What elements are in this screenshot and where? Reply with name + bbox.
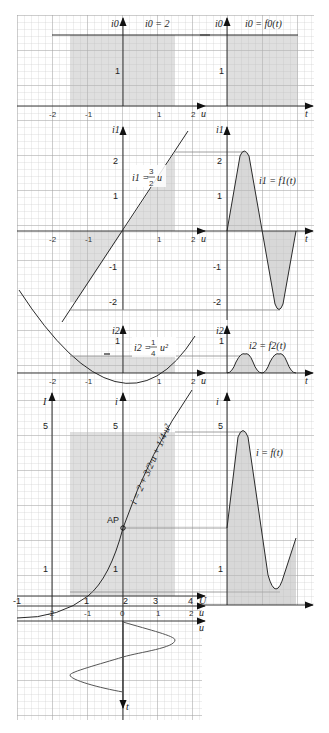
total-outer-tick-1: 1 xyxy=(43,564,48,574)
i1t-y-axis-label: i1 xyxy=(216,124,224,135)
i0t-shaded-area xyxy=(227,35,298,106)
i1-tick-neg2: -2 xyxy=(109,297,117,307)
i0-equation: i0 = 2 xyxy=(145,18,170,29)
totalt-y-axis-label: i xyxy=(216,396,219,407)
total-inner-xtick-2: 2 xyxy=(189,609,194,618)
i2t-x-axis-label: t xyxy=(305,375,308,386)
total-outer-xtick-neg1: -1 xyxy=(13,596,21,606)
i1t-tick-neg2: -2 xyxy=(213,297,221,307)
total-outer-tick-5: 5 xyxy=(43,421,48,431)
svg-text:i1 =: i1 = xyxy=(132,172,149,183)
i1t-tick-neg1: -1 xyxy=(213,262,221,272)
i0-xtick-1: 1 xyxy=(157,110,162,119)
svg-text:2: 2 xyxy=(149,179,154,188)
i2-xtick-neg2: -2 xyxy=(49,377,57,386)
i1-xtick-1: 1 xyxy=(157,235,162,244)
svg-text:u: u xyxy=(157,172,162,183)
svg-text:1: 1 xyxy=(151,338,156,347)
i2t-y-axis-label: i2 xyxy=(216,325,224,336)
i2t-tick-1: 1 xyxy=(219,336,224,346)
total-outer-xtick-3: 3 xyxy=(153,596,158,606)
i1-tick-2: 2 xyxy=(113,156,118,166)
total-inner-xtick-1: 1 xyxy=(156,609,161,618)
totalt-tick-5: 5 xyxy=(218,421,223,431)
i0-xtick-neg2: -2 xyxy=(49,110,57,119)
i1t-tick-1: 1 xyxy=(217,191,222,201)
i0-y-axis-label: i0 xyxy=(111,18,119,29)
totalt-tick-1: 1 xyxy=(218,564,223,574)
i2-xtick-1: 1 xyxy=(157,377,162,386)
i1-xtick-2: 2 xyxy=(191,235,196,244)
i2-xtick-2: 2 xyxy=(191,377,196,386)
svg-text:i2 =: i2 = xyxy=(134,342,151,353)
i2-shaded-area xyxy=(70,356,175,373)
i2-xtick-neg1: -1 xyxy=(85,377,93,386)
total-outer-xtick-1: 1 xyxy=(84,596,89,606)
total-inner-tick-5: 5 xyxy=(113,421,118,431)
i1-tick-neg1: -1 xyxy=(109,262,117,272)
total-outer-xtick-4: 4 xyxy=(188,596,193,606)
svg-text:u²: u² xyxy=(160,342,169,353)
i0t-y-axis-label: i0 xyxy=(215,18,223,29)
i0-xtick-neg1: -1 xyxy=(85,110,93,119)
i1-y-axis-label: i1 xyxy=(112,124,120,135)
i2-equation: i2 = 1 4 u² xyxy=(132,337,176,358)
svg-text:3: 3 xyxy=(149,167,154,176)
total-outer-x-label: U xyxy=(199,595,207,606)
i1t-x-axis-label: t xyxy=(305,233,308,244)
i1-xtick-neg2: -2 xyxy=(49,235,57,244)
total-inner-xtick-neg2: -2 xyxy=(47,609,55,618)
i0t-equation: i0 = f0(t) xyxy=(245,18,282,30)
i2t-equation: i2 = f2(t) xyxy=(249,340,286,352)
total-inner-y-label: i xyxy=(115,396,118,407)
i0-xtick-2: 2 xyxy=(191,110,196,119)
total-inner-x-label: u xyxy=(199,607,204,618)
i1-x-axis-label: u xyxy=(201,233,206,244)
i1-xtick-neg1: -1 xyxy=(85,235,93,244)
svg-text:4: 4 xyxy=(151,349,156,358)
totalt-equation: i = f(t) xyxy=(256,447,283,459)
i2-x-axis-label: u xyxy=(201,375,206,386)
total-outer-xtick-2: 2 xyxy=(123,596,128,606)
i0t-x-axis-label: t xyxy=(305,108,308,119)
diagram-canvas: i0 i0 = 2 1 -2 -1 1 2 u i0 i0 = f0(t) 1 … xyxy=(0,0,329,733)
i2-tick-1: 1 xyxy=(115,336,120,346)
input-t-label: t xyxy=(126,701,129,712)
operating-point-label: AP xyxy=(107,515,119,525)
i1-tick-1: 1 xyxy=(113,191,118,201)
i0-shaded-area xyxy=(70,35,175,106)
total-outer-y-label: I xyxy=(42,396,47,407)
total-inner-tick-1: 1 xyxy=(113,564,118,574)
total-inner-xtick-neg1: -1 xyxy=(84,609,92,618)
i2-y-axis-label: i2 xyxy=(112,325,120,336)
input-u-label: u xyxy=(199,622,204,633)
i1-equation: i1 = 3 2 u xyxy=(130,165,166,188)
i0-x-axis-label: u xyxy=(201,108,206,119)
i1t-equation: i1 = f1(t) xyxy=(259,175,296,187)
i0t-tick-1: 1 xyxy=(219,66,224,76)
i0-tick-1: 1 xyxy=(115,66,120,76)
total-inner-xtick-0: 0 xyxy=(120,609,125,618)
i1t-tick-2: 2 xyxy=(217,156,222,166)
